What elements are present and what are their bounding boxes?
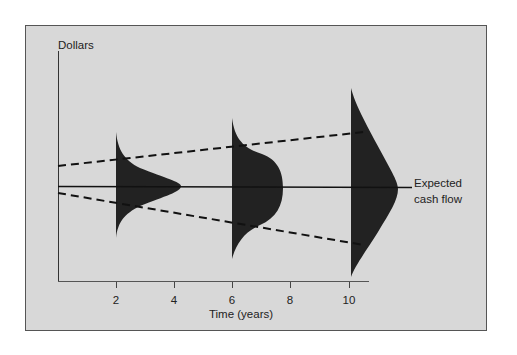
x-ticks [117, 282, 350, 288]
x-tick-label: 6 [229, 295, 235, 307]
expected-cash-flow-label: Expected cash flow [414, 175, 462, 207]
y-axis-label: Dollars [58, 40, 94, 52]
expected-cash-flow-line [58, 187, 412, 188]
upper-bound-line [58, 132, 364, 166]
x-axis-label: Time (years) [209, 309, 273, 321]
distribution-year-6 [232, 118, 283, 259]
expected-label-line2: cash flow [414, 191, 462, 207]
x-tick-label: 2 [113, 295, 119, 307]
lower-bound-line [58, 193, 364, 245]
distribution-year-10 [351, 88, 398, 277]
expected-label-line1: Expected [414, 175, 462, 191]
x-tick-label: 4 [171, 295, 177, 307]
x-tick-label: 10 [343, 295, 356, 307]
x-tick-label: 8 [287, 295, 293, 307]
distribution-year-2 [116, 132, 181, 238]
